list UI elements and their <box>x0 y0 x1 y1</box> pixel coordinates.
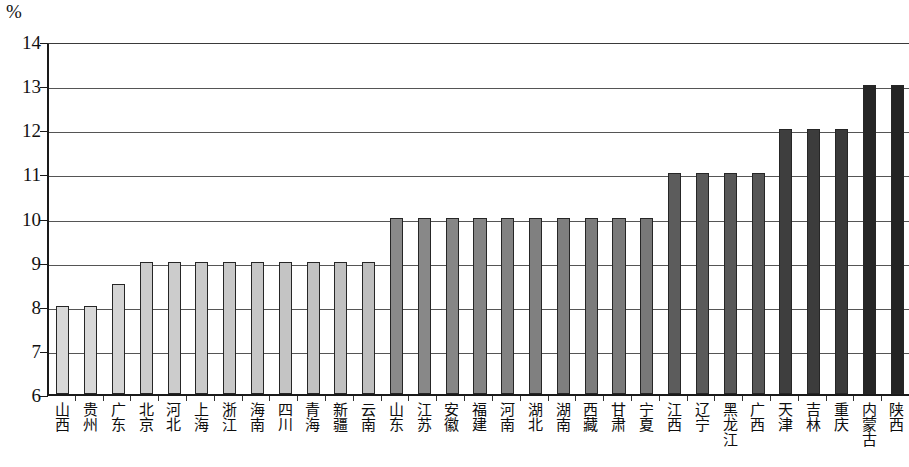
x-axis-category-label: 广西 <box>743 402 770 432</box>
x-axis-tick-mark <box>158 396 159 401</box>
x-axis-tick-mark <box>881 396 882 401</box>
x-axis-category-label: 吉林 <box>798 402 825 432</box>
bar <box>251 262 264 394</box>
x-axis-category-label: 甘肃 <box>604 402 631 432</box>
x-axis-tick-mark <box>603 396 604 401</box>
bar <box>612 218 625 395</box>
bar <box>891 85 904 394</box>
bar <box>863 85 876 394</box>
x-axis-tick-mark <box>436 396 437 401</box>
bar <box>557 218 570 395</box>
x-axis-category-label: 北京 <box>131 402 158 432</box>
bar <box>752 173 765 394</box>
bar <box>418 218 431 395</box>
bar <box>640 218 653 395</box>
y-axis-tick-label: 8 <box>5 298 41 317</box>
x-axis-tick-mark <box>186 396 187 401</box>
x-axis-tick-mark <box>659 396 660 401</box>
bar <box>473 218 486 395</box>
bar <box>223 262 236 394</box>
x-axis-category-label: 山东 <box>381 402 408 432</box>
x-axis-category-label: 贵州 <box>75 402 102 432</box>
bar <box>724 173 737 394</box>
y-axis-tick-label: 11 <box>5 165 41 184</box>
bar <box>446 218 459 395</box>
bar <box>168 262 181 394</box>
y-axis-tick-label: 9 <box>5 254 41 273</box>
x-axis-tick-mark <box>75 396 76 401</box>
bar <box>529 218 542 395</box>
x-axis-tick-mark <box>548 396 549 401</box>
x-axis-category-label: 湖南 <box>548 402 575 432</box>
x-axis-tick-mark <box>464 396 465 401</box>
bar <box>362 262 375 394</box>
x-axis-tick-mark <box>687 396 688 401</box>
bar <box>668 173 681 394</box>
x-axis-tick-mark <box>575 396 576 401</box>
x-axis-tick-mark <box>770 396 771 401</box>
bar <box>140 262 153 394</box>
x-axis-category-label: 辽宁 <box>687 402 714 432</box>
bar <box>334 262 347 394</box>
x-axis-tick-mark <box>130 396 131 401</box>
gridline <box>49 88 909 89</box>
x-axis-category-label: 黑龙江 <box>715 402 742 447</box>
x-axis-category-label: 云南 <box>353 402 380 432</box>
x-axis-tick-mark <box>381 396 382 401</box>
x-axis-category-label: 福建 <box>465 402 492 432</box>
bar <box>501 218 514 395</box>
bar <box>112 284 125 394</box>
x-axis-tick-mark <box>297 396 298 401</box>
y-axis-tick-label: 14 <box>5 33 41 52</box>
x-axis-category-label: 青海 <box>298 402 325 432</box>
x-axis-category-label: 江西 <box>659 402 686 432</box>
y-axis-tick-label: 6 <box>5 386 41 405</box>
x-axis-tick-mark <box>269 396 270 401</box>
x-axis-category-label: 江苏 <box>409 402 436 432</box>
x-axis-tick-mark <box>798 396 799 401</box>
x-axis-tick-mark <box>103 396 104 401</box>
x-axis-tick-mark <box>714 396 715 401</box>
x-axis-category-label: 海南 <box>242 402 269 432</box>
x-axis-category-label: 四川 <box>270 402 297 432</box>
bar <box>56 306 69 394</box>
x-axis-tick-mark <box>214 396 215 401</box>
x-axis-tick-mark <box>520 396 521 401</box>
x-axis-category-label: 新疆 <box>325 402 352 432</box>
x-axis-category-labels: 山西贵州广东北京河北上海浙江海南四川青海新疆云南山东江苏安徽福建河南湖北湖南西藏… <box>47 402 909 467</box>
x-axis-tick-mark <box>408 396 409 401</box>
x-axis-category-label: 山西 <box>47 402 74 432</box>
bar <box>195 262 208 394</box>
bar <box>307 262 320 394</box>
bar <box>835 129 848 394</box>
x-axis-category-label: 安徽 <box>437 402 464 432</box>
x-axis-category-label: 广东 <box>103 402 130 432</box>
x-axis-tick-mark <box>826 396 827 401</box>
x-axis-category-label: 河南 <box>492 402 519 432</box>
x-axis-category-label: 西藏 <box>576 402 603 432</box>
x-axis-category-label: 天津 <box>770 402 797 432</box>
x-axis-category-label: 上海 <box>186 402 213 432</box>
bar <box>807 129 820 394</box>
x-axis-category-label: 重庆 <box>826 402 853 432</box>
bar <box>279 262 292 394</box>
bar <box>585 218 598 395</box>
plot-area <box>47 43 909 396</box>
x-axis-category-label: 内蒙古 <box>854 402 881 447</box>
x-axis-tick-mark <box>242 396 243 401</box>
y-axis-tick-label: 7 <box>5 342 41 361</box>
bar <box>779 129 792 394</box>
y-axis-tick-label: 10 <box>5 210 41 229</box>
bar-chart-figure: % 14131211109876 山西贵州广东北京河北上海浙江海南四川青海新疆云… <box>0 0 909 467</box>
y-axis-tick-label: 12 <box>5 121 41 140</box>
x-axis-category-label: 陕西 <box>882 402 909 432</box>
x-axis-tick-mark <box>492 396 493 401</box>
bar <box>84 306 97 394</box>
x-axis-tick-mark <box>853 396 854 401</box>
x-axis-tick-mark <box>742 396 743 401</box>
x-axis-category-label: 湖北 <box>520 402 547 432</box>
bar <box>696 173 709 394</box>
x-axis-tick-mark <box>631 396 632 401</box>
y-axis-tick-label: 13 <box>5 77 41 96</box>
x-axis-tick-mark <box>353 396 354 401</box>
